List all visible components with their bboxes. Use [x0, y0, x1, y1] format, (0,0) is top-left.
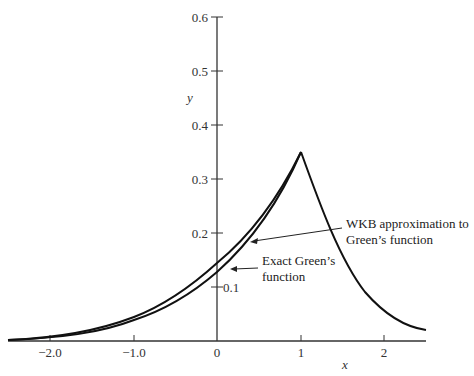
y-tick-label: 0.1	[223, 280, 239, 295]
y-tick-label: 0.5	[192, 64, 208, 79]
exact-pointer-line	[234, 268, 258, 269]
x-tick-label: 0	[214, 345, 221, 360]
x-tick-label: 1	[298, 345, 305, 360]
y-tick-labels: 0.6 0.5 0.4 0.3 0.2	[192, 10, 209, 241]
exact-curve	[8, 152, 301, 340]
exact-annotation-line1: Exact Green’s	[262, 253, 335, 268]
x-tick-label: 2	[381, 345, 388, 360]
y-axis-label: y	[185, 90, 193, 105]
x-tick-labels: −2.0 −1.0 0 1 2	[38, 345, 387, 360]
y-tick-label: 0.4	[192, 118, 209, 133]
exact-arrowhead	[230, 266, 237, 272]
y-tick-label: 0.6	[192, 10, 209, 25]
x-tick-label: −2.0	[38, 345, 62, 360]
exact-annotation-line2: function	[262, 269, 306, 284]
x-tick-label: −1.0	[122, 345, 146, 360]
wkb-annotation-line1: WKB approximation to	[346, 216, 469, 231]
chart-canvas: −2.0 −1.0 0 1 2 x 0.6 0.5 0.4 0.3 0.2 0.…	[0, 0, 474, 376]
y-tick-label: 0.3	[192, 172, 208, 187]
wkb-pointer-line	[254, 228, 342, 241]
x-axis-label: x	[341, 357, 348, 372]
y-tick-label: 0.2	[192, 226, 208, 241]
wkb-arrowhead	[250, 238, 258, 244]
wkb-annotation-line2: Green’s function	[346, 232, 434, 247]
